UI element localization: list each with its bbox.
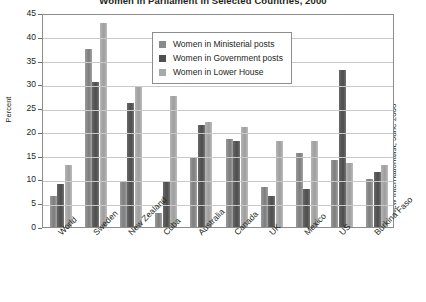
y-tick-label: 30 bbox=[2, 80, 36, 89]
legend-label: Women in Ministerial posts bbox=[173, 39, 274, 49]
bar-group bbox=[325, 15, 360, 227]
y-tick-mark bbox=[38, 109, 42, 110]
y-tick-mark bbox=[38, 157, 42, 158]
bar bbox=[261, 187, 268, 227]
bar bbox=[100, 23, 107, 227]
bar bbox=[226, 139, 233, 227]
gridline bbox=[43, 110, 393, 111]
bar bbox=[331, 160, 338, 227]
bar bbox=[233, 141, 240, 227]
bar bbox=[241, 127, 248, 227]
gridline bbox=[43, 181, 393, 182]
bar-group bbox=[78, 15, 113, 227]
legend-swatch-icon bbox=[159, 41, 166, 48]
y-tick-label: 5 bbox=[2, 199, 36, 208]
y-tick-label: 20 bbox=[2, 128, 36, 137]
bar bbox=[339, 70, 346, 227]
legend-label: Women in Lower House bbox=[173, 67, 264, 77]
bar bbox=[276, 141, 283, 227]
gridline bbox=[43, 133, 393, 134]
bar-group bbox=[113, 15, 148, 227]
chart-legend: Women in Ministerial postsWomen in Gover… bbox=[152, 32, 292, 84]
y-tick-mark bbox=[38, 180, 42, 181]
bar bbox=[205, 122, 212, 227]
x-axis-labels: WorldSwedenNew ZealandCubaAustraliaCanad… bbox=[42, 228, 394, 302]
bar bbox=[50, 196, 57, 227]
y-tick-label: 40 bbox=[2, 33, 36, 42]
bar bbox=[296, 153, 303, 227]
y-tick-mark bbox=[38, 85, 42, 86]
y-tick-mark bbox=[38, 62, 42, 63]
bar bbox=[155, 213, 162, 227]
y-tick-label: 15 bbox=[2, 152, 36, 161]
legend-label: Women in Government posts bbox=[173, 53, 283, 63]
bar bbox=[85, 49, 92, 227]
bar bbox=[198, 125, 205, 227]
legend-item: Women in Government posts bbox=[159, 51, 283, 65]
bar bbox=[127, 103, 134, 227]
legend-swatch-icon bbox=[159, 69, 166, 76]
y-tick-label: 0 bbox=[2, 223, 36, 232]
y-tick-label: 35 bbox=[2, 57, 36, 66]
gridline bbox=[43, 86, 393, 87]
y-tick-label: 10 bbox=[2, 175, 36, 184]
gridline bbox=[43, 205, 393, 206]
legend-item: Women in Ministerial posts bbox=[159, 37, 283, 51]
y-tick-mark bbox=[38, 38, 42, 39]
bar-chart: Women in Parliament in Selected Countrie… bbox=[0, 0, 426, 302]
bar bbox=[190, 158, 197, 227]
bar bbox=[170, 96, 177, 227]
legend-swatch-icon bbox=[159, 55, 166, 62]
y-tick-mark bbox=[38, 133, 42, 134]
y-tick-mark bbox=[38, 14, 42, 15]
chart-title: Women in Parliament in Selected Countrie… bbox=[0, 0, 426, 7]
y-tick-label: 45 bbox=[2, 9, 36, 18]
y-tick-mark bbox=[38, 204, 42, 205]
y-tick-label: 25 bbox=[2, 104, 36, 113]
legend-item: Women in Lower House bbox=[159, 65, 283, 79]
bar-group bbox=[360, 15, 395, 227]
gridline bbox=[43, 157, 393, 158]
bar-group bbox=[43, 15, 78, 227]
bar bbox=[366, 179, 373, 227]
bar-group bbox=[289, 15, 324, 227]
bar bbox=[346, 163, 353, 227]
